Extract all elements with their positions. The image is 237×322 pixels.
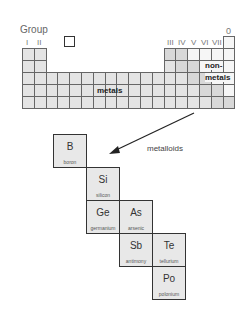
element-antimony: Sbantimony — [119, 233, 153, 267]
element-polonium: Popolonium — [152, 266, 186, 300]
metalloids-diagram: Group I II III IV V VI VII 0 metals non-… — [0, 0, 237, 322]
arrow-icon — [0, 0, 237, 322]
element-germanium: Gegermanium — [86, 200, 120, 234]
element-boron: Bboron — [53, 134, 87, 168]
element-arsenic: Asarsenic — [119, 200, 153, 234]
metalloids-label: metalloids — [147, 144, 183, 153]
element-tellurium: Tetellurium — [152, 233, 186, 267]
element-silicon: Sisilicon — [86, 167, 120, 201]
